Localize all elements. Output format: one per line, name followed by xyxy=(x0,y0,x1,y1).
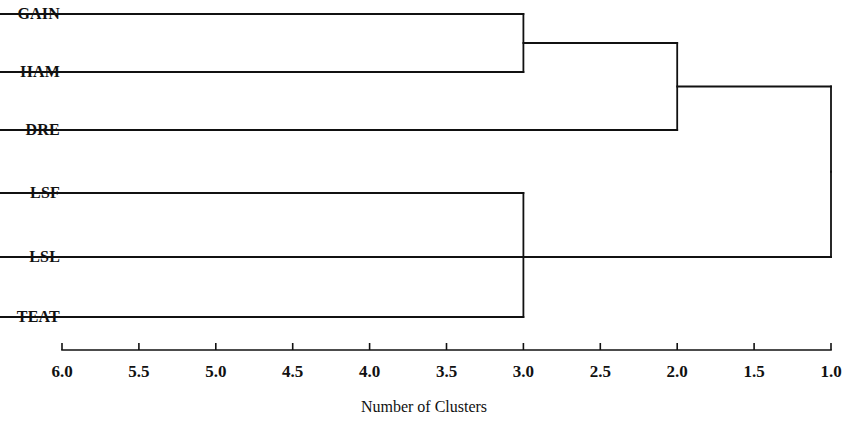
dendrogram-plot: GAINHAMDRELSFLSLTEAT 6.05.55.04.54.03.53… xyxy=(0,0,848,425)
x-axis-tick-marks xyxy=(62,343,831,350)
dendrogram-figure: GAINHAMDRELSFLSLTEAT 6.05.55.04.54.03.53… xyxy=(0,0,848,425)
tick-label-5.0: 5.0 xyxy=(205,362,226,381)
tick-label-3.0: 3.0 xyxy=(513,362,534,381)
tick-label-1.5: 1.5 xyxy=(743,362,764,381)
leaf-line-group xyxy=(0,14,831,317)
tick-label-1.0: 1.0 xyxy=(820,362,841,381)
tick-label-2.5: 2.5 xyxy=(590,362,611,381)
x-axis-title: Number of Clusters xyxy=(361,398,487,415)
tick-label-6.0: 6.0 xyxy=(51,362,72,381)
tick-label-2.0: 2.0 xyxy=(667,362,688,381)
tick-label-3.5: 3.5 xyxy=(436,362,457,381)
tick-label-4.5: 4.5 xyxy=(282,362,303,381)
merge-link-group xyxy=(523,14,831,317)
leaf-label-group: GAINHAMDRELSFLSLTEAT xyxy=(17,5,60,325)
tick-label-5.5: 5.5 xyxy=(128,362,149,381)
x-axis-tick-labels: 6.05.55.04.54.03.53.02.52.01.51.0 xyxy=(51,362,841,381)
tick-label-4.0: 4.0 xyxy=(359,362,380,381)
